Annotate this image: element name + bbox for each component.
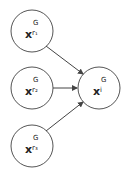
label-sub: r₂ [32,87,38,94]
label-sub: r₁ [32,30,38,37]
label-sub: r₃ [32,145,38,152]
node-label-i: x G i [93,82,100,98]
graph-edges-and-nodes [0,0,128,176]
node-label-r1: x G r₁ [25,25,32,41]
label-sup: G [33,77,38,84]
label-sup: G [33,20,38,27]
label-sup: G [101,77,106,84]
label-sub: i [100,87,102,94]
node-label-r3: x G r₃ [25,140,32,156]
graph-diagram: x G r₁ x G r₂ x G r₃ x G i [0,0,128,176]
edge-r3-to-i [46,102,83,131]
node-label-r2: x G r₂ [25,82,32,98]
label-sup: G [33,135,38,142]
edge-r1-to-i [46,46,83,74]
